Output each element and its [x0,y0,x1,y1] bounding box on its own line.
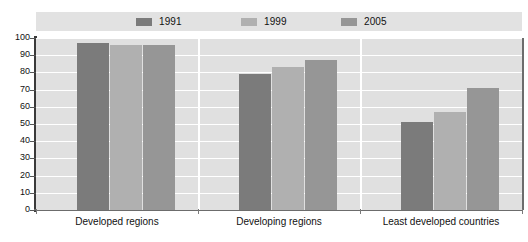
y-axis-tick [30,38,36,39]
x-label-least-developed-countries: Least developed countries [360,216,522,228]
x-axis-tick [36,209,37,214]
y-axis-tick [30,72,36,73]
bar-1999-developed-regions [110,45,142,210]
y-axis-tick-label: 20 [4,171,30,180]
legend-label-2005: 2005 [364,17,387,27]
bar-2005-developing-regions [305,60,337,210]
y-axis-tick [30,90,36,91]
plot-area [36,38,524,210]
y-axis-tick-label: 90 [4,50,30,59]
bar-group-developed-regions [36,38,198,210]
bar-2005-least-developed-countries [467,88,499,210]
legend-item-1991: 1991 [136,12,182,31]
x-axis-category-labels: Developed regions Developing regions Lea… [36,216,522,236]
bar-group-developing-regions [198,38,360,210]
bar-1991-developing-regions [239,74,271,210]
y-axis-tick-label: 50 [4,119,30,128]
y-axis-tick-label: 30 [4,153,30,162]
y-axis-tick-label: 60 [4,102,30,111]
x-axis-tick [360,209,361,214]
bar-1999-least-developed-countries [434,112,466,210]
y-axis-tick-labels: 1009080706050403020100 [0,0,30,242]
bar-chart: 1991 1999 2005 1009080706050403020100 De… [0,0,528,242]
legend-item-1999: 1999 [241,12,287,31]
y-axis-tick [30,124,36,125]
chart-legend: 1991 1999 2005 [36,12,522,31]
legend-swatch-icon-2005 [341,18,357,26]
x-axis-tick [198,209,199,214]
x-axis-tick [522,209,523,214]
y-axis-tick-label: 10 [4,188,30,197]
legend-swatch-icon-1991 [136,18,152,26]
y-axis-tick [30,107,36,108]
legend-swatch-icon-1999 [241,18,257,26]
bar-1999-developing-regions [272,67,304,210]
bar-1991-least-developed-countries [401,122,433,210]
x-label-developing-regions: Developing regions [198,216,360,228]
y-axis-tick [30,158,36,159]
y-axis-tick-label: 40 [4,136,30,145]
y-axis-tick-label: 0 [4,205,30,214]
y-axis-tick-label: 100 [4,33,30,42]
y-axis-tick [30,55,36,56]
y-axis-tick [30,193,36,194]
y-axis-tick [30,141,36,142]
bar-1991-developed-regions [77,43,109,210]
y-axis-tick [30,176,36,177]
y-axis-tick-label: 80 [4,67,30,76]
x-label-developed-regions: Developed regions [36,216,198,228]
legend-item-2005: 2005 [341,12,387,31]
legend-label-1991: 1991 [159,17,182,27]
bar-2005-developed-regions [143,45,175,210]
bar-group-least-developed-countries [360,38,522,210]
legend-label-1999: 1999 [264,17,287,27]
y-axis-tick-label: 70 [4,85,30,94]
